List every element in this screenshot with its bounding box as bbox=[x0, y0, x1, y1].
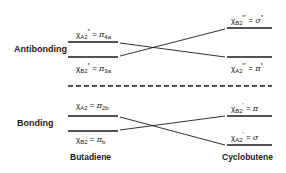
correlation-pi2b-to-sigma bbox=[120, 117, 225, 145]
orbital-label-pi3a: χB2* = π3a bbox=[76, 62, 111, 74]
orbital-label-sigma: χA2′ = σ bbox=[231, 131, 258, 143]
correlation-pi3a-to-sigma-star bbox=[120, 29, 225, 56]
orbital-label-sigma-star: χB2*′ = σ* bbox=[231, 14, 263, 26]
orbital-label-pi: χB2′ = π bbox=[231, 102, 258, 114]
bonding-label: Bonding bbox=[17, 119, 54, 128]
correlation-pib-to-pi bbox=[120, 116, 225, 130]
correlation-pi4a-to-pi-star bbox=[120, 43, 225, 57]
orbital-label-pi-star: χA2*′ = π* bbox=[231, 62, 263, 74]
cyclobutene-label: Cyclobutene bbox=[222, 153, 273, 162]
butadiene-label: Butadiene bbox=[70, 153, 111, 162]
orbital-label-pi2b: χA2 = π2b bbox=[76, 102, 109, 111]
orbital-label-pib: χB2 = πb bbox=[76, 136, 105, 145]
antibonding-label: Antibonding bbox=[14, 45, 67, 54]
orbital-label-pi4a: χA2* = π4a bbox=[76, 28, 111, 40]
